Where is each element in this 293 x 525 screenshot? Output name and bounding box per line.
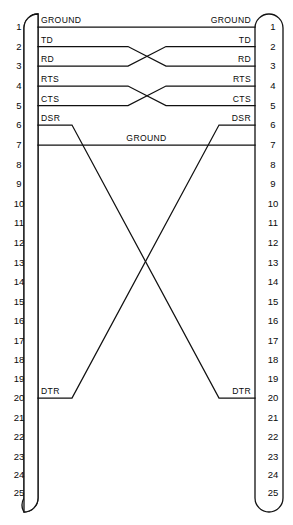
left-pin-24: 24 bbox=[8, 470, 30, 480]
left-pin-14: 14 bbox=[8, 277, 30, 287]
label-left-rd: RD bbox=[41, 55, 54, 64]
label-left-dtr: DTR bbox=[41, 387, 60, 396]
label-right-dtr: DTR bbox=[232, 387, 251, 396]
left-pin-23: 23 bbox=[8, 452, 30, 462]
left-pin-20: 20 bbox=[8, 393, 30, 403]
label-left-ground-pin1: GROUND bbox=[41, 16, 81, 25]
left-pin-4: 4 bbox=[8, 81, 30, 91]
label-left-rts: RTS bbox=[41, 75, 59, 84]
right-pin-3: 3 bbox=[262, 61, 284, 71]
right-pin-1: 1 bbox=[262, 22, 284, 32]
right-pin-14: 14 bbox=[262, 277, 284, 287]
left-pin-22: 22 bbox=[8, 432, 30, 442]
left-pin-13: 13 bbox=[8, 258, 30, 268]
label-right-rd: RD bbox=[238, 55, 251, 64]
right-pin-18: 18 bbox=[262, 355, 284, 365]
left-pin-18: 18 bbox=[8, 355, 30, 365]
left-pin-11: 11 bbox=[8, 218, 30, 228]
right-pin-16: 16 bbox=[262, 316, 284, 326]
wiring-diagram: 1 2 3 4 5 6 7 8 9 10 11 12 13 14 15 16 1… bbox=[0, 0, 293, 525]
left-pin-6: 6 bbox=[8, 120, 30, 130]
left-pin-8: 8 bbox=[8, 160, 30, 170]
left-pin-10: 10 bbox=[8, 199, 30, 209]
label-left-cts: CTS bbox=[41, 95, 59, 104]
label-right-ground-pin1: GROUND bbox=[211, 16, 251, 25]
right-pin-25: 25 bbox=[262, 488, 284, 498]
left-pin-19: 19 bbox=[8, 374, 30, 384]
wire-cts bbox=[38, 86, 255, 106]
right-pin-10: 10 bbox=[262, 199, 284, 209]
right-pin-17: 17 bbox=[262, 336, 284, 346]
left-pin-1: 1 bbox=[8, 22, 30, 32]
left-pin-16: 16 bbox=[8, 316, 30, 326]
label-center-ground-pin7: GROUND bbox=[0, 134, 293, 143]
label-right-rts: RTS bbox=[233, 75, 251, 84]
left-pin-25: 25 bbox=[8, 488, 30, 498]
right-pin-21: 21 bbox=[262, 413, 284, 423]
label-right-td: TD bbox=[239, 36, 251, 45]
left-pin-17: 17 bbox=[8, 336, 30, 346]
right-pin-9: 9 bbox=[262, 179, 284, 189]
right-pin-5: 5 bbox=[262, 101, 284, 111]
right-pin-13: 13 bbox=[262, 258, 284, 268]
right-pin-2: 2 bbox=[262, 42, 284, 52]
label-right-dsr: DSR bbox=[232, 114, 251, 123]
label-left-dsr: DSR bbox=[41, 114, 60, 123]
left-pin-2: 2 bbox=[8, 42, 30, 52]
right-pin-23: 23 bbox=[262, 452, 284, 462]
wire-dtr-left-to-dsr-right bbox=[38, 125, 255, 398]
right-pin-15: 15 bbox=[262, 297, 284, 307]
left-pin-3: 3 bbox=[8, 61, 30, 71]
right-pin-8: 8 bbox=[262, 160, 284, 170]
right-pin-19: 19 bbox=[262, 374, 284, 384]
left-pin-9: 9 bbox=[8, 179, 30, 189]
left-pin-15: 15 bbox=[8, 297, 30, 307]
left-pin-5: 5 bbox=[8, 101, 30, 111]
right-pin-6: 6 bbox=[262, 120, 284, 130]
right-pin-4: 4 bbox=[262, 81, 284, 91]
right-pin-20: 20 bbox=[262, 393, 284, 403]
left-pin-21: 21 bbox=[8, 413, 30, 423]
left-pin-12: 12 bbox=[8, 238, 30, 248]
right-pin-24: 24 bbox=[262, 470, 284, 480]
label-left-td: TD bbox=[41, 36, 53, 45]
wire-rd bbox=[38, 47, 255, 67]
label-right-cts: CTS bbox=[233, 95, 251, 104]
right-pin-12: 12 bbox=[262, 238, 284, 248]
wire-dsr-left-to-dtr-right bbox=[38, 125, 255, 398]
right-pin-11: 11 bbox=[262, 218, 284, 228]
right-pin-22: 22 bbox=[262, 432, 284, 442]
